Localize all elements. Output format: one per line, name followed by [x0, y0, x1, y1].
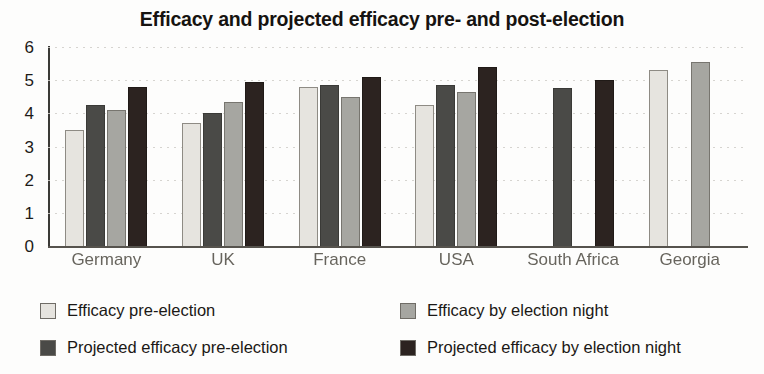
bar[interactable] [65, 130, 84, 246]
bar-slot [86, 47, 105, 246]
chart-title: Efficacy and projected efficacy pre- and… [0, 8, 764, 31]
x-axis-label: USA [398, 249, 515, 275]
bar-groups [48, 47, 748, 246]
bar[interactable] [320, 85, 339, 246]
bar-group [515, 47, 632, 246]
legend-swatch [400, 340, 416, 356]
bar-slot [341, 47, 360, 246]
bar[interactable] [107, 110, 126, 246]
legend-label: Efficacy pre-election [67, 301, 215, 320]
bar-slot [595, 47, 614, 246]
bar-slot [107, 47, 126, 246]
bar-slot [478, 47, 497, 246]
y-axis-tick-labels: 6543210 [0, 47, 42, 246]
bar[interactable] [182, 123, 201, 246]
bar[interactable] [86, 105, 105, 246]
bar-slots [48, 47, 165, 246]
bar-group [281, 47, 398, 246]
bar-slot [649, 47, 668, 246]
bar[interactable] [299, 87, 318, 246]
bar-slot [245, 47, 264, 246]
bar[interactable] [457, 92, 476, 246]
bar-slot [574, 47, 593, 246]
y-tick-label: 2 [25, 171, 34, 188]
bar[interactable] [203, 113, 222, 246]
legend-swatch [40, 303, 56, 319]
x-axis-category-labels: GermanyUKFranceUSASouth AfricaGeorgia [48, 249, 748, 275]
bar[interactable] [691, 62, 710, 246]
legend-item[interactable]: Efficacy by election night [400, 301, 740, 320]
x-axis-label: France [281, 249, 398, 275]
bar-slot [436, 47, 455, 246]
bar-slot [182, 47, 201, 246]
x-axis-label: South Africa [515, 249, 632, 275]
legend-label: Projected efficacy by election night [427, 338, 681, 357]
bar-slot [320, 47, 339, 246]
bar-slot [457, 47, 476, 246]
bar-group [48, 47, 165, 246]
bar-slot [415, 47, 434, 246]
bar-slot [362, 47, 381, 246]
bar-slots [515, 47, 632, 246]
y-tick-label: 1 [25, 204, 34, 221]
bar-slots [165, 47, 282, 246]
bar[interactable] [128, 87, 147, 246]
legend-swatch [40, 340, 56, 356]
x-axis-label: Germany [48, 249, 165, 275]
bar[interactable] [245, 82, 264, 246]
bar-group [631, 47, 748, 246]
legend-label: Projected efficacy pre-election [67, 338, 288, 357]
bar-slot [203, 47, 222, 246]
bar[interactable] [341, 97, 360, 246]
y-tick-label: 0 [25, 238, 34, 255]
bar-slot [299, 47, 318, 246]
legend-swatch [400, 303, 416, 319]
bar-chart-figure: Efficacy and projected efficacy pre- and… [0, 0, 764, 374]
chart-legend: Efficacy pre-electionEfficacy by electio… [40, 292, 740, 366]
bar-slots [631, 47, 748, 246]
x-axis-label: Georgia [631, 249, 748, 275]
bar[interactable] [553, 88, 572, 246]
y-tick-label: 4 [25, 105, 34, 122]
bar-slot [670, 47, 689, 246]
plot-area [48, 47, 748, 246]
bar[interactable] [478, 67, 497, 246]
y-tick-label: 3 [25, 138, 34, 155]
bar-slot [128, 47, 147, 246]
bar-slot [532, 47, 551, 246]
bar-slot [712, 47, 731, 246]
bar-slots [398, 47, 515, 246]
bar-slot [691, 47, 710, 246]
x-axis-line [48, 246, 748, 248]
bar-slot [553, 47, 572, 246]
bar[interactable] [415, 105, 434, 246]
bar-slots [281, 47, 398, 246]
legend-item[interactable]: Projected efficacy by election night [400, 338, 740, 357]
y-tick-label: 6 [25, 39, 34, 56]
bar[interactable] [595, 80, 614, 246]
bar[interactable] [649, 70, 668, 246]
bar-group [165, 47, 282, 246]
bar-group [398, 47, 515, 246]
legend-label: Efficacy by election night [427, 301, 608, 320]
bar[interactable] [224, 102, 243, 246]
legend-item[interactable]: Efficacy pre-election [40, 301, 400, 320]
bar-slot [224, 47, 243, 246]
bar[interactable] [436, 85, 455, 246]
x-axis-label: UK [165, 249, 282, 275]
legend-item[interactable]: Projected efficacy pre-election [40, 338, 400, 357]
y-tick-label: 5 [25, 72, 34, 89]
bar[interactable] [362, 77, 381, 246]
bar-slot [65, 47, 84, 246]
